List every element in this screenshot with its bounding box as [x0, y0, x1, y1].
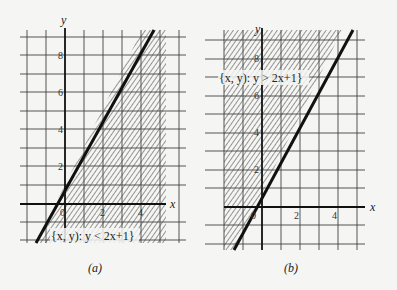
y-tick-8-a: 8 [58, 50, 63, 61]
y-tick-4-a: 4 [58, 124, 63, 135]
y-tick-4-b: 4 [254, 127, 259, 138]
x-tick-2-a: 2 [100, 207, 105, 218]
x-tick-0-b: 0 [251, 210, 256, 221]
set-label-b: {x, y): y > 2x+1} [219, 71, 302, 85]
y-tick-6-a: 6 [58, 87, 63, 98]
y-tick-2-b: 2 [254, 164, 259, 175]
y-tick-2-a: 2 [58, 161, 63, 172]
y-axis-label-b: y [254, 22, 261, 36]
x-tick-0-a: 0 [60, 207, 65, 218]
x-axis-label-b: x [369, 200, 376, 214]
figure: 8 6 4 2 0 2 4 y x {x, y): y < 2x+1} (a) [0, 0, 397, 290]
x-tick-2-b: 2 [294, 210, 299, 221]
set-label-a: {x, y): y < 2x+1} [51, 229, 134, 243]
x-tick-4-b: 4 [332, 210, 337, 221]
y-tick-8-b: 8 [254, 53, 259, 64]
caption-a: (a) [88, 261, 102, 275]
panel-a: 8 6 4 2 0 2 4 y x {x, y): y < 2x+1} (a) [20, 13, 186, 275]
panel-b: 8 6 4 2 0 2 4 y x {x, y): y > 2x+1} (b) [205, 22, 376, 275]
x-tick-4-a: 4 [138, 207, 143, 218]
y-tick-6-b: 6 [254, 90, 259, 101]
x-axis-label-a: x [169, 197, 176, 211]
shaded-region-b [224, 30, 342, 250]
caption-b: (b) [284, 261, 298, 275]
y-axis-label-a: y [60, 13, 67, 27]
